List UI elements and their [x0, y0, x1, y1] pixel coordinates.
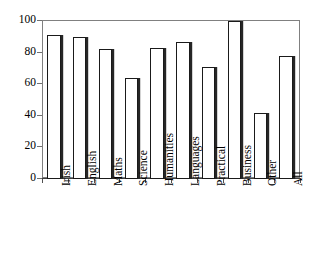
y-axis-tick-label: 100 — [19, 14, 36, 26]
bar[interactable] — [47, 35, 61, 179]
x-axis-tick-label: Business — [241, 145, 253, 186]
x-axis-tick-label: All — [292, 171, 304, 186]
x-axis-tick-label: Science — [137, 150, 149, 186]
x-axis-tick-label: Other — [266, 160, 278, 186]
bar[interactable] — [202, 67, 216, 179]
y-axis-tick-label: 40 — [25, 109, 37, 121]
y-axis-tick-label: 80 — [25, 46, 37, 58]
x-axis-tick-label: English — [86, 151, 98, 186]
bar[interactable] — [176, 42, 190, 179]
bar-chart: 100806040200 IrishEnglishMathsScienceHum… — [0, 0, 314, 257]
y-axis-tick-label: 0 — [30, 172, 36, 184]
y-axis-tick-label: 60 — [25, 77, 37, 89]
x-axis-tick-label: Irish — [60, 165, 72, 186]
x-axis-tick — [42, 179, 43, 183]
bar-slot — [42, 20, 68, 179]
x-axis-tick-label: Languages — [189, 136, 201, 186]
x-axis-tick-label: Humanities — [163, 133, 175, 186]
bar[interactable] — [73, 37, 87, 179]
bar[interactable] — [125, 78, 139, 179]
bar[interactable] — [99, 49, 113, 179]
bar[interactable] — [150, 48, 164, 179]
x-axis-tick-label: Maths — [112, 157, 124, 186]
bar[interactable] — [279, 56, 293, 179]
bar[interactable] — [254, 113, 268, 179]
x-axis-tick-label: Practical — [215, 146, 227, 186]
bar-slot — [274, 20, 300, 179]
y-axis-tick-label: 20 — [25, 140, 37, 152]
bar[interactable] — [228, 21, 242, 179]
